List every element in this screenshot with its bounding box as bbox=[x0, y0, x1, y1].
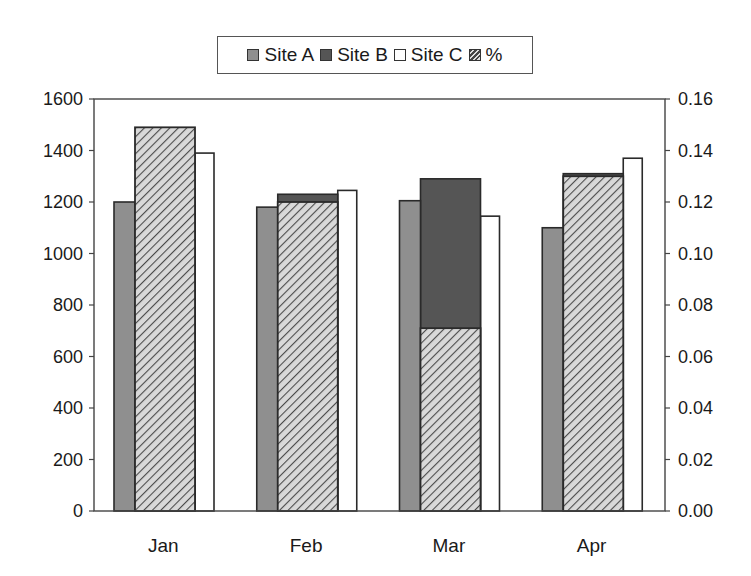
bar-site-c bbox=[338, 190, 357, 511]
y-left-tick-label: 200 bbox=[53, 450, 83, 470]
bar-site-c bbox=[623, 158, 642, 511]
y-right-tick-label: 0.08 bbox=[678, 295, 713, 315]
y-left-tick-label: 1000 bbox=[43, 244, 83, 264]
y-left-tick-label: 600 bbox=[53, 347, 83, 367]
y-right-tick-label: 0.12 bbox=[678, 192, 713, 212]
y-left-tick-label: 400 bbox=[53, 398, 83, 418]
x-tick-label: Mar bbox=[433, 535, 466, 556]
y-left-tick-label: 1400 bbox=[43, 141, 83, 161]
bar-site-a bbox=[542, 228, 563, 511]
y-left-tick-label: 0 bbox=[73, 501, 83, 521]
bar-site-c bbox=[195, 153, 214, 511]
bar-site-c bbox=[481, 216, 500, 511]
y-right-tick-label: 0.10 bbox=[678, 244, 713, 264]
bar-site-a bbox=[114, 202, 135, 511]
x-tick-label: Feb bbox=[290, 535, 323, 556]
bar-percent bbox=[135, 127, 195, 511]
y-left-tick-label: 1600 bbox=[43, 89, 83, 109]
bar-percent bbox=[563, 176, 623, 511]
y-right-tick-label: 0.00 bbox=[678, 501, 713, 521]
bar-site-a bbox=[257, 207, 278, 511]
y-right-tick-label: 0.04 bbox=[678, 398, 713, 418]
bar-site-a bbox=[400, 201, 421, 511]
y-right-tick-label: 0.06 bbox=[678, 347, 713, 367]
bar-chart: JanFebMarApr 020040060080010001200140016… bbox=[0, 0, 751, 576]
y-right-tick-label: 0.02 bbox=[678, 450, 713, 470]
x-tick-label: Apr bbox=[577, 535, 607, 556]
bar-percent bbox=[278, 202, 338, 511]
y-right-tick-label: 0.16 bbox=[678, 89, 713, 109]
y-right-tick-label: 0.14 bbox=[678, 141, 713, 161]
bar-percent bbox=[421, 328, 481, 511]
y-left-tick-label: 1200 bbox=[43, 192, 83, 212]
y-left-tick-label: 800 bbox=[53, 295, 83, 315]
x-tick-label: Jan bbox=[148, 535, 179, 556]
